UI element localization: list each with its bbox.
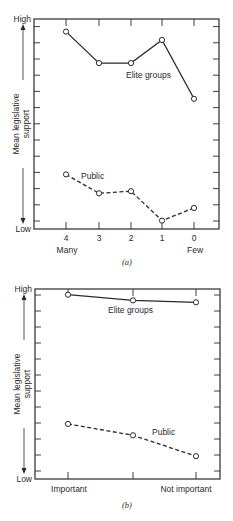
caption-a: (a) bbox=[122, 257, 132, 267]
series-public-line-a bbox=[66, 174, 194, 220]
x-tick-label: 2 bbox=[129, 233, 134, 243]
markers-b bbox=[65, 292, 198, 459]
panel-a: High Low Mean legislative support 4 3 2 … bbox=[11, 14, 219, 267]
x-end-label-not-important: Not important bbox=[160, 484, 212, 494]
data-point-marker bbox=[128, 189, 133, 194]
plot-frame-a bbox=[34, 19, 219, 229]
y-ticks-b bbox=[35, 295, 220, 471]
data-point-marker bbox=[96, 191, 101, 196]
data-point-marker bbox=[130, 298, 135, 303]
panel-b: High Low Mean legislative support Import… bbox=[12, 284, 220, 510]
caption-b: (b) bbox=[122, 500, 132, 510]
figure: High Low Mean legislative support 4 3 2 … bbox=[0, 0, 233, 521]
plot-frame-b bbox=[35, 289, 220, 479]
y-high-label-b: High bbox=[15, 284, 33, 294]
y-axis-title-a-line1: Mean legislative bbox=[11, 93, 21, 154]
data-point-marker bbox=[193, 300, 198, 305]
x-tick-label: 0 bbox=[192, 233, 197, 243]
y-axis-title-a-line2: support bbox=[21, 109, 31, 138]
data-point-marker bbox=[159, 218, 164, 223]
data-point-marker bbox=[96, 61, 101, 66]
y-low-label-b: Low bbox=[16, 474, 32, 484]
data-point-marker bbox=[159, 37, 164, 42]
x-end-label-few: Few bbox=[187, 245, 204, 255]
data-point-marker bbox=[128, 61, 133, 66]
y-low-label-a: Low bbox=[15, 224, 31, 234]
y-axis-title-b-line1: Mean legislative bbox=[12, 353, 22, 414]
data-point-marker bbox=[130, 433, 135, 438]
x-tick-label: 3 bbox=[97, 233, 102, 243]
data-point-marker bbox=[65, 421, 70, 426]
series-label-elite-b: Elite groups bbox=[108, 305, 153, 315]
data-point-marker bbox=[63, 172, 68, 177]
series-label-public-b: Public bbox=[152, 427, 176, 437]
data-point-marker bbox=[193, 454, 198, 459]
y-high-label-a: High bbox=[14, 14, 32, 24]
y-axis-title-b-line2: support bbox=[22, 369, 32, 398]
series-label-elite-a: Elite groups bbox=[126, 70, 171, 80]
data-point-marker bbox=[191, 205, 196, 210]
data-point-marker bbox=[63, 29, 68, 34]
data-point-marker bbox=[65, 292, 70, 297]
x-end-label-important: Important bbox=[51, 484, 88, 494]
series-label-public-a: Public bbox=[81, 171, 105, 181]
x-end-label-many: Many bbox=[57, 245, 79, 255]
x-tick-label: 1 bbox=[160, 233, 165, 243]
x-tick-label: 4 bbox=[64, 233, 69, 243]
markers-a bbox=[63, 29, 196, 223]
data-point-marker bbox=[191, 96, 196, 101]
